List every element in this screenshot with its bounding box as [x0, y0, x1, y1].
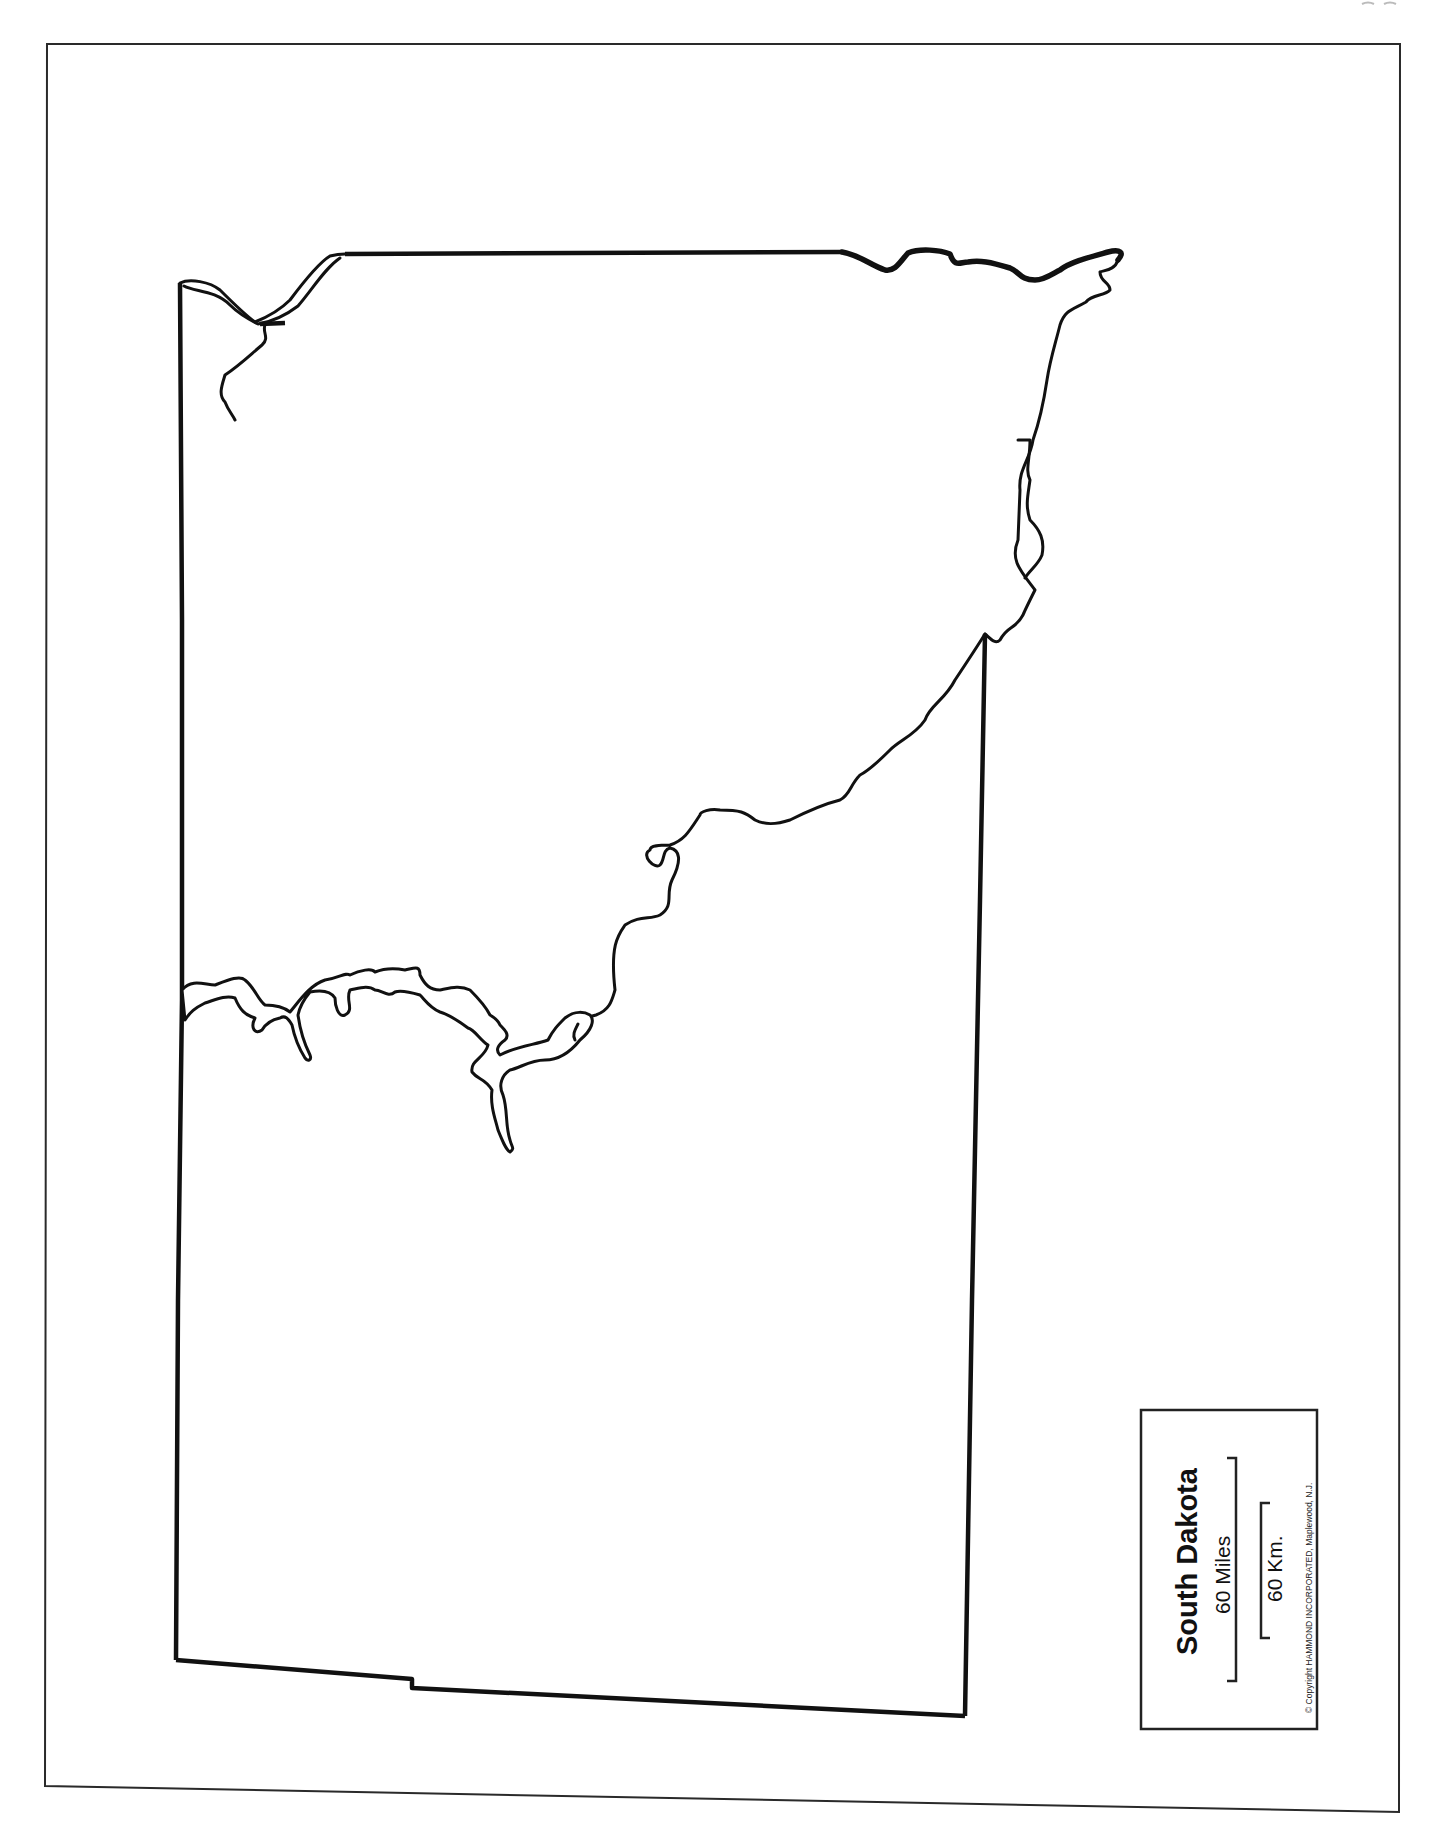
missouri-river-main — [578, 634, 985, 1024]
scan-mark — [1362, 3, 1396, 5]
scale-label-miles: 60 Miles — [1211, 1536, 1234, 1614]
state-border-east — [965, 634, 985, 1716]
big-sioux-channel — [1018, 440, 1043, 578]
south-dakota-outline-map: South Dakota 60 Miles 60 Km. © Copyright… — [0, 0, 1435, 1845]
grand-river — [221, 325, 266, 420]
state-border-north — [260, 252, 842, 324]
lake-francis-case — [182, 968, 592, 1152]
state-border-northeast-river — [842, 250, 1121, 280]
legend-title: South Dakota — [1171, 1467, 1203, 1655]
lake-oahe-bank-west — [180, 254, 345, 322]
state-border-west — [176, 283, 182, 1660]
state-border-south — [176, 1660, 965, 1716]
scale-label-km: 60 Km. — [1263, 1535, 1286, 1602]
legend: South Dakota 60 Miles 60 Km. © Copyright… — [1141, 1410, 1317, 1729]
copyright-text: © Copyright HAMMOND INCORPORATED, Maplew… — [1304, 1483, 1314, 1713]
state-border-east-wiggle — [985, 260, 1118, 642]
